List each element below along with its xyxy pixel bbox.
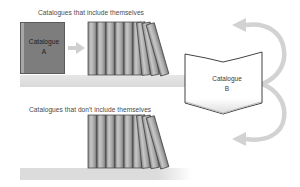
arrowhead-up-icon — [232, 18, 246, 32]
top-shelf-books — [88, 22, 169, 76]
catalogue-b-label: Catalogue B — [202, 74, 252, 93]
arrowhead-down-icon — [232, 132, 246, 146]
catalogue-b-label-line1: Catalogue — [202, 74, 252, 84]
arrow-right-icon — [68, 42, 85, 54]
catalogue-b-label-line2: B — [202, 84, 252, 94]
diagram-graphics — [0, 0, 300, 187]
bottom-shelf-books — [88, 115, 169, 169]
